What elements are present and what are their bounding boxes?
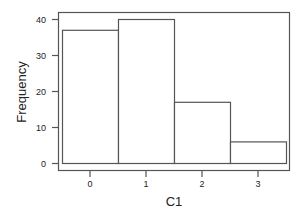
y-tick-label: 20 xyxy=(36,87,46,97)
bar-1 xyxy=(119,20,175,164)
x-tick-label: 0 xyxy=(87,179,92,189)
y-tick-label: 10 xyxy=(36,123,46,133)
y-tick-label: 30 xyxy=(36,51,46,61)
x-tick-label: 2 xyxy=(199,179,204,189)
bar-0 xyxy=(63,30,119,163)
x-axis: 0123 xyxy=(87,171,260,189)
y-tick-label: 0 xyxy=(41,159,46,169)
y-axis: 010203040 xyxy=(36,15,58,169)
bar-2 xyxy=(175,102,231,163)
x-axis-label: C1 xyxy=(166,194,183,209)
y-axis-label: Frequency xyxy=(14,61,29,123)
x-tick-label: 3 xyxy=(255,179,260,189)
bar-3 xyxy=(231,142,287,164)
x-tick-label: 1 xyxy=(143,179,148,189)
bars xyxy=(63,20,287,164)
y-tick-label: 40 xyxy=(36,15,46,25)
histogram-chart: 010203040 0123 Frequency C1 xyxy=(0,0,302,219)
